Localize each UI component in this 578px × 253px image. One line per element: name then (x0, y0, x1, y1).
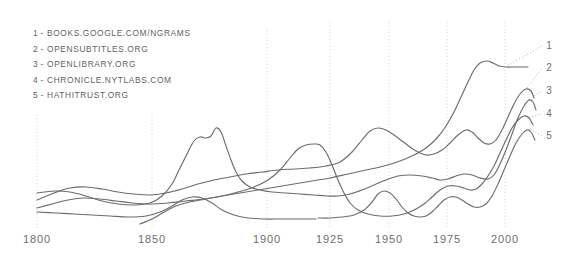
series-end-label-3: 3 (546, 85, 552, 96)
legend-separator-4: - (41, 75, 44, 85)
legend-number-5: 5 (33, 90, 38, 100)
series-end-label-4: 4 (546, 108, 552, 119)
legend-separator-5: - (41, 90, 44, 100)
x-axis-tick-label-1975: 1975 (433, 233, 461, 245)
series-end-label-2: 2 (546, 62, 552, 73)
x-axis-tick-label-1925: 1925 (316, 233, 344, 245)
legend-label-4[interactable]: CHRONICLE.NYTLABS.COM (47, 75, 172, 85)
x-axis-tick-label-1900: 1900 (253, 233, 281, 245)
legend-number-3: 3 (33, 59, 38, 69)
legend-separator-3: - (41, 59, 44, 69)
legend-label-2[interactable]: OPENSUBTITLES.ORG (47, 44, 148, 54)
legend-number-2: 2 (33, 44, 38, 54)
chart-container: 1-BOOKS.GOOGLE.COM/NGRAMS2-OPENSUBTITLES… (0, 0, 578, 253)
line-chart: 1-BOOKS.GOOGLE.COM/NGRAMS2-OPENSUBTITLES… (0, 0, 578, 253)
legend-separator-1: - (41, 28, 44, 38)
legend-label-3[interactable]: OPENLIBRARY.ORG (47, 59, 136, 69)
series-end-label-1: 1 (546, 40, 552, 51)
legend-number-1: 1 (33, 28, 38, 38)
legend-label-1[interactable]: BOOKS.GOOGLE.COM/NGRAMS (47, 28, 191, 38)
x-axis-tick-label-1850: 1850 (138, 233, 166, 245)
series-end-label-5: 5 (546, 130, 552, 141)
legend-label-5[interactable]: HATHITRUST.ORG (47, 90, 129, 100)
x-axis-tick-label-2000: 2000 (491, 233, 519, 245)
legend-number-4: 4 (33, 75, 38, 85)
x-axis-tick-label-1800: 1800 (23, 233, 51, 245)
x-axis-tick-label-1950: 1950 (375, 233, 403, 245)
legend-separator-2: - (41, 44, 44, 54)
